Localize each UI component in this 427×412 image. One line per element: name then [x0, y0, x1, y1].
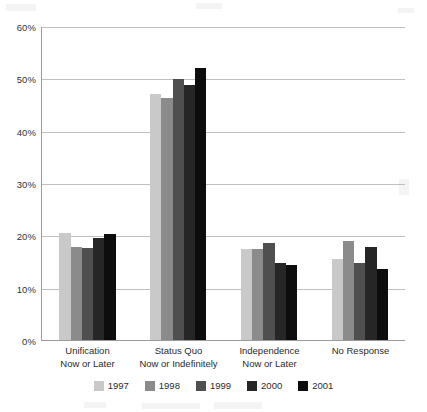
bar-1999[interactable] — [263, 243, 274, 340]
bar-2000[interactable] — [275, 263, 286, 340]
legend-label-2000: 2000 — [261, 381, 282, 391]
category-label-line1: Status Quo — [155, 345, 203, 356]
y-axis-tick-label: 20% — [0, 231, 36, 242]
category-label-line2: Now or Later — [224, 358, 315, 371]
bar-1998[interactable] — [343, 241, 354, 340]
chart-legend: 19971998199920002001 — [0, 381, 427, 391]
bar-1998[interactable] — [161, 98, 172, 340]
x-axis-category-labels: UnificationNow or LaterStatus QuoNow or … — [42, 345, 406, 370]
legend-item-2001[interactable]: 2001 — [298, 381, 333, 391]
bar-1998[interactable] — [71, 247, 82, 340]
bar-group-bars — [241, 27, 297, 340]
legend-item-1998[interactable]: 1998 — [145, 381, 180, 391]
bar-1997[interactable] — [150, 94, 161, 340]
scan-artifact — [214, 402, 262, 409]
bar-2001[interactable] — [377, 269, 388, 340]
bar-1999[interactable] — [82, 248, 93, 340]
bar-group-bars — [150, 27, 206, 340]
bar-group — [42, 27, 133, 340]
y-axis-tick-label: 60% — [0, 22, 36, 33]
scan-artifact — [196, 3, 222, 9]
bar-2001[interactable] — [104, 234, 115, 340]
bar-group — [224, 27, 315, 340]
y-axis-tick-label: 40% — [0, 126, 36, 137]
scan-artifact — [142, 403, 200, 409]
scan-artifact — [84, 402, 106, 408]
legend-label-1998: 1998 — [159, 381, 180, 391]
x-axis-category-label: IndependenceNow or Later — [224, 345, 315, 370]
y-axis-tick-label: 0% — [0, 336, 36, 347]
legend-swatch-1999 — [196, 381, 206, 391]
legend-swatch-1998 — [145, 381, 155, 391]
category-label-line2: Now or Indefinitely — [133, 358, 224, 371]
bar-1998[interactable] — [252, 249, 263, 340]
y-axis-tick-label: 10% — [0, 283, 36, 294]
y-axis-tick-label: 50% — [0, 74, 36, 85]
scan-artifact — [6, 4, 36, 11]
legend-label-2001: 2001 — [312, 381, 333, 391]
legend-item-2000[interactable]: 2000 — [247, 381, 282, 391]
x-axis-category-label: No Response — [315, 345, 406, 370]
category-label-line1: No Response — [332, 345, 390, 356]
y-axis-tick-label: 30% — [0, 179, 36, 190]
bar-1997[interactable] — [241, 249, 252, 340]
bar-2001[interactable] — [286, 265, 297, 340]
bar-group — [133, 27, 224, 340]
bar-chart: 0%10%20%30%40%50%60% UnificationNow or L… — [0, 0, 427, 412]
category-label-line2: Now or Later — [42, 358, 133, 371]
legend-swatch-2000 — [247, 381, 257, 391]
category-label-line1: Unification — [65, 345, 109, 356]
x-axis-category-label: UnificationNow or Later — [42, 345, 133, 370]
bar-2000[interactable] — [365, 247, 376, 340]
bar-group-bars — [59, 27, 115, 340]
category-label-line1: Independence — [239, 345, 299, 356]
x-axis-category-label: Status QuoNow or Indefinitely — [133, 345, 224, 370]
legend-label-1999: 1999 — [210, 381, 231, 391]
scan-artifact — [398, 8, 414, 13]
bar-group — [314, 27, 405, 340]
bar-1999[interactable] — [173, 79, 184, 340]
legend-swatch-1997 — [94, 381, 104, 391]
bar-1997[interactable] — [59, 233, 70, 340]
bar-1999[interactable] — [354, 263, 365, 340]
bar-2000[interactable] — [93, 238, 104, 340]
legend-item-1999[interactable]: 1999 — [196, 381, 231, 391]
legend-label-1997: 1997 — [108, 381, 129, 391]
bar-groups — [42, 27, 405, 340]
bar-2001[interactable] — [195, 68, 206, 340]
plot-area — [41, 27, 405, 341]
bar-group-bars — [332, 27, 388, 340]
bar-2000[interactable] — [184, 85, 195, 340]
legend-item-1997[interactable]: 1997 — [94, 381, 129, 391]
bar-1997[interactable] — [332, 259, 343, 340]
legend-swatch-2001 — [298, 381, 308, 391]
